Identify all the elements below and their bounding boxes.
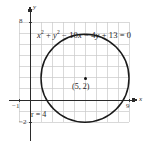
equation-exp-y: 2 [57,29,60,35]
x-tick-label-minus1: −1 [12,103,19,110]
x-axis [9,97,138,102]
equation-coef-10: 10 [69,30,78,40]
x-tick-label-9: 9 [126,103,130,110]
equation-rhs-0: 0 [127,30,131,40]
y-tick-label-8: 8 [19,18,23,25]
equation-op-2: − [62,30,67,40]
x-axis-label: x [139,96,142,103]
center-point-label: (5, 2) [72,83,89,91]
equation-equals: = [120,30,125,40]
equation-const-13: 13 [109,30,118,40]
y-axis-label: y [33,4,36,11]
equation-var-x2: x [78,30,82,40]
equation-exp-x: 2 [41,29,44,35]
equation-op-1: + [46,30,51,40]
center-point-dot [84,77,87,80]
y-axis [27,6,32,141]
radius-label: r = 4 [31,111,46,119]
circle-graph-figure: x2 + y2 − 10x − 4y + 13 = 0 x y 8 −1 −2 … [0,0,147,147]
equation-op-3: − [84,30,89,40]
equation-var-y2: y [96,30,100,40]
y-tick-label-minus2: −2 [19,119,26,126]
equation-op-4: + [102,30,107,40]
equation-label: x2 + y2 − 10x − 4y + 13 = 0 [37,31,131,40]
